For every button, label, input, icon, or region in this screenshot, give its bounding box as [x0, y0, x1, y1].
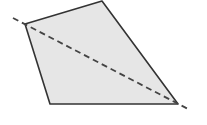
diagram-canvas	[0, 0, 207, 125]
quadrilateral-shape	[25, 1, 178, 104]
